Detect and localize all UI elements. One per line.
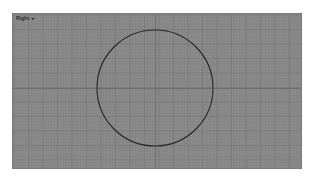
construction-axis-horizontal: [13, 88, 302, 89]
cad-viewport-right[interactable]: Right: [12, 13, 302, 169]
circle-curve[interactable]: [97, 30, 213, 146]
viewport-title-label[interactable]: Right: [16, 15, 35, 22]
chevron-down-icon[interactable]: [31, 18, 35, 20]
cad-application-window: Right: [0, 0, 313, 181]
viewport-grid-fine: [13, 14, 301, 168]
viewport-label-text: Right: [16, 15, 29, 22]
viewport-grid-major: [13, 14, 301, 168]
geometry-layer: [13, 14, 302, 169]
construction-axis-vertical: [155, 14, 156, 169]
